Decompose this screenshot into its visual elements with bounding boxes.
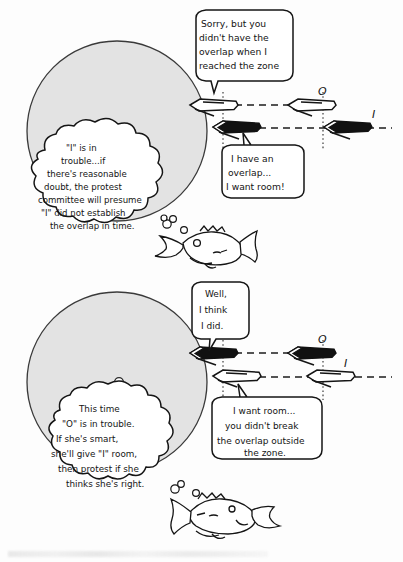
speech-o-bottom-line-2: I did.: [201, 321, 223, 331]
label-boat-o-top: O: [318, 85, 327, 98]
speech-i-bottom-line-3: the zone.: [244, 448, 286, 458]
thought-top-line-5: "I" did not establish: [41, 208, 126, 218]
speech-bubble-o-top: Sorry, but you didn't have the overlap w…: [196, 10, 293, 93]
speech-o-top-line-1: didn't have the: [199, 32, 269, 43]
thought-top-line-0: "I" is in: [66, 143, 97, 153]
thought-bottom-line-4: then protest if she: [58, 464, 139, 474]
speech-o-bottom-line-1: I think: [199, 305, 228, 315]
speech-o-top-line-3: reached the zone: [199, 60, 279, 71]
speech-i-bottom-line-2: the overlap outside: [217, 436, 305, 446]
thought-bottom-line-3: she'll give "I" room,: [51, 449, 137, 459]
speech-o-bottom-line-0: Well,: [205, 289, 227, 299]
speech-i-bottom-line-0: I want room...: [233, 406, 295, 416]
scene-svg: O I Sorry, but you didn't have the overl…: [0, 0, 403, 562]
label-boat-i-top: I: [372, 108, 375, 121]
thought-bottom-line-5: thinks she's right.: [66, 479, 144, 489]
cartoon-page: O I Sorry, but you didn't have the overl…: [0, 0, 403, 562]
thought-top-line-6: the overlap in time.: [50, 221, 135, 231]
thought-top-line-4: committee will presume: [38, 195, 142, 205]
thought-top-line-3: doubt, the protest: [44, 182, 122, 192]
thought-top-line-1: trouble...if: [61, 156, 106, 166]
speech-i-bottom-line-1: you didn't break: [225, 421, 299, 431]
speech-o-top-line-2: overlap when I: [199, 46, 267, 57]
thought-bottom-line-1: "O" is in trouble.: [62, 419, 135, 429]
speech-i-top-line-0: I have an: [231, 153, 274, 164]
page-footer-smudge: [8, 551, 268, 557]
speech-o-top-line-0: Sorry, but you: [201, 18, 266, 29]
thought-top-line-2: there's reasonable: [47, 169, 127, 179]
speech-i-top-line-1: overlap...: [228, 167, 271, 178]
thought-bottom-line-2: If she's smart,: [56, 434, 118, 444]
speech-i-top-line-2: I want room!: [226, 181, 285, 192]
label-boat-o-bottom: O: [318, 333, 327, 346]
label-boat-i-bottom: I: [344, 357, 347, 370]
thought-bottom-line-0: This time: [78, 404, 120, 414]
